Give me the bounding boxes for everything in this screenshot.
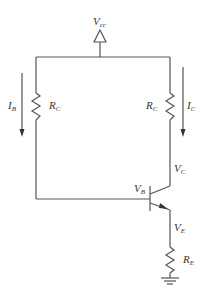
ib-current-arrow-icon <box>20 73 25 137</box>
rc-right-label: RC <box>146 100 157 113</box>
vcc-supply-icon <box>94 30 106 57</box>
ic-label: IC <box>187 100 195 113</box>
vcc-label: Vcc <box>93 16 106 29</box>
resistor-rc-left-icon <box>32 93 40 120</box>
npn-transistor-icon <box>150 186 170 211</box>
ve-label: VE <box>174 222 185 235</box>
left-branch <box>32 57 150 199</box>
vb-label: VB <box>134 183 145 196</box>
resistor-re-icon <box>166 247 174 273</box>
ic-current-arrow-icon <box>181 67 186 137</box>
re-label: RE <box>183 254 194 267</box>
ib-label: IB <box>8 100 16 113</box>
bjt-circuit-diagram: Vcc IB RC RC IC VC VB VE RE <box>0 0 205 299</box>
right-branch <box>166 57 174 186</box>
ground-icon <box>161 278 179 284</box>
emitter-branch <box>166 210 174 278</box>
vc-label: VC <box>174 163 185 176</box>
resistor-rc-right-icon <box>166 93 174 120</box>
rc-left-label: RC <box>49 100 60 113</box>
